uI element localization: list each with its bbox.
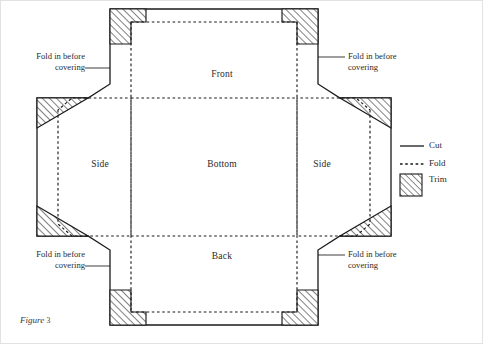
panel-label-side-left: Side — [91, 159, 109, 169]
legend-label-fold: Fold — [429, 158, 446, 168]
callout-bottom-left-line2: covering — [11, 260, 85, 271]
figure-caption: Figure 3 — [20, 315, 50, 325]
callout-top-right: Fold in before covering — [348, 51, 422, 74]
callout-bottom-right: Fold in before covering — [348, 249, 422, 272]
legend-label-cut: Cut — [429, 140, 442, 150]
callout-top-left-line1: Fold in before — [11, 51, 85, 62]
legend-trim-swatch — [400, 174, 422, 196]
legend-group — [400, 146, 424, 196]
callout-top-left-line2: covering — [11, 62, 85, 73]
callout-bottom-right-line1: Fold in before — [348, 249, 422, 260]
callout-top-left: Fold in before covering — [11, 51, 85, 74]
callout-top-right-line2: covering — [348, 62, 422, 73]
panel-label-front: Front — [211, 69, 233, 79]
callout-bottom-left: Fold in before covering — [11, 249, 85, 272]
panel-label-side-right: Side — [313, 159, 331, 169]
callout-top-right-line1: Fold in before — [348, 51, 422, 62]
figure-caption-prefix: Figure — [20, 315, 44, 325]
panel-label-bottom: Bottom — [207, 159, 237, 169]
callout-bottom-left-line1: Fold in before — [11, 249, 85, 260]
callout-bottom-right-line2: covering — [348, 260, 422, 271]
figure-caption-number: 3 — [46, 316, 50, 325]
panel-label-back: Back — [212, 251, 232, 261]
legend-label-trim: Trim — [429, 174, 447, 184]
